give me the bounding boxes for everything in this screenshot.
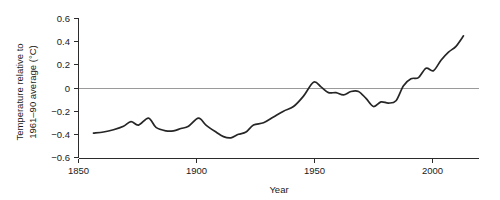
y-tick-label-4: −0.2 [51,106,70,117]
y-axis: 0.6 0.4 0.2 0 −0.2 −0.4 −0.6 [51,13,78,163]
y-tick-label-5: −0.4 [51,129,70,140]
y-tick-label-3: 0 [65,83,70,94]
y-tick-label-0: 0.6 [57,13,70,24]
x-tick-label-1900: 1900 [186,165,207,176]
y-tick-label-6: −0.6 [51,152,70,163]
x-tick-label-1850: 1850 [68,165,89,176]
y-tick-label-2: 0.2 [57,59,70,70]
x-tick-label-1950: 1950 [304,165,325,176]
x-tick-label-2000: 2000 [422,165,443,176]
chart-canvas: Temperature relative to 1961–90 average … [0,0,500,200]
temperature-series-line [94,36,464,138]
y-tick-label-1: 0.4 [57,36,70,47]
x-axis-title: Year [269,184,288,195]
x-axis: 1850 1900 1950 2000 [68,159,479,177]
temperature-anomaly-chart: Temperature relative to 1961–90 average … [0,0,500,200]
y-axis-title: Temperature relative to 1961–90 average … [14,43,38,140]
y-axis-title-line2: 1961–90 average (°C) [27,45,38,139]
y-axis-title-line1: Temperature relative to [14,43,25,140]
